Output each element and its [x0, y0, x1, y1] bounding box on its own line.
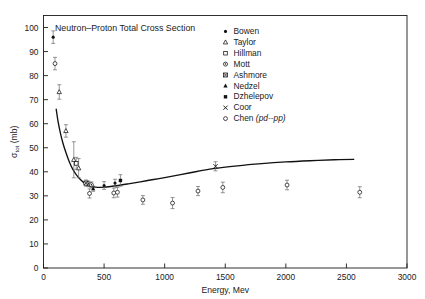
x-tick-label: 2000 [277, 272, 296, 282]
marker-open-circle [53, 62, 57, 66]
marker-filled-circle [113, 182, 116, 185]
marker-filled-square [119, 179, 122, 182]
y-tick-label: 70 [29, 95, 39, 105]
legend-label: Ashmore [234, 70, 268, 80]
marker-open-square [224, 51, 228, 55]
data-point [285, 183, 289, 187]
data-point [53, 62, 57, 66]
marker-dotted-circle [225, 63, 227, 65]
data-point [221, 185, 225, 189]
marker-filled-circle [52, 36, 55, 39]
data-point [84, 181, 88, 185]
series-ashmore [84, 180, 88, 186]
y-tick-label: 20 [29, 215, 39, 225]
legend-label: Bowen [234, 26, 260, 36]
data-point [358, 190, 362, 194]
y-axis-title: σtot (mb) [9, 125, 20, 157]
y-tick-label: 90 [29, 47, 39, 57]
legend-label: Coor [234, 102, 252, 112]
marker-open-square [74, 162, 78, 166]
marker-open-circle [285, 183, 289, 187]
legend-label: Nedzel [234, 81, 260, 91]
x-axis-title: Energy, Mev [201, 285, 249, 295]
y-tick-label: 50 [29, 143, 39, 153]
data-point [171, 201, 175, 205]
marker-open-circle [171, 201, 175, 205]
y-tick-label: 60 [29, 119, 39, 129]
chart-title: Neutron–Proton Total Cross Section [55, 23, 195, 33]
x-tick-label: 0 [41, 272, 46, 282]
marker-open-circle [88, 192, 92, 196]
marker-filled-square [224, 95, 227, 98]
data-point [103, 184, 106, 187]
data-point [52, 36, 55, 39]
marker-filled-circle [103, 184, 106, 187]
legend-item-chen-pd-pp: Chen (pd--pp) [224, 113, 286, 123]
marker-open-circle [112, 191, 116, 195]
y-tick-label: 40 [29, 167, 39, 177]
x-tick-label: 500 [97, 272, 111, 282]
chart-title-text: Neutron–Proton Total Cross Section [55, 23, 195, 33]
y-tick-label: 80 [29, 71, 39, 81]
data-point [112, 191, 116, 195]
y-tick-label: 100 [25, 23, 39, 33]
data-point [113, 182, 116, 185]
data-point [88, 192, 92, 196]
y-axis-title-text: σtot (mb) [9, 125, 20, 157]
marker-dotted-circle [91, 184, 93, 186]
figure-background [0, 0, 425, 299]
marker-filled-circle [224, 30, 227, 33]
y-tick-label: 0 [34, 263, 39, 273]
legend-label: Taylor [234, 37, 257, 47]
data-point [196, 189, 200, 193]
legend-label: Dzhelepov [234, 91, 274, 101]
legend-label: Chen (pd--pp) [234, 113, 286, 123]
marker-open-circle [221, 185, 225, 189]
y-tick-label: 30 [29, 191, 39, 201]
x-tick-label: 1000 [155, 272, 174, 282]
x-tick-label: 2500 [337, 272, 356, 282]
marker-open-circle [224, 117, 228, 121]
legend-label: Mott [234, 59, 251, 69]
data-point [74, 162, 78, 166]
marker-open-circle [115, 190, 119, 194]
marker-open-circle [358, 190, 362, 194]
data-point [115, 190, 119, 194]
y-tick-label: 10 [29, 239, 39, 249]
x-tick-label: 3000 [398, 272, 417, 282]
data-point [141, 198, 145, 202]
x-tick-label: 1500 [216, 272, 235, 282]
marker-open-circle [196, 189, 200, 193]
marker-open-circle [141, 198, 145, 202]
legend-label: Hillman [234, 48, 262, 58]
data-point [119, 179, 122, 182]
chart-figure: 0102030405060708090100050010001500200025… [0, 0, 425, 299]
